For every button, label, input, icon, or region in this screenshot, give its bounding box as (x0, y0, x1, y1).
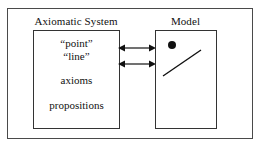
arrows-svg (118, 38, 156, 72)
double-headed-arrow-lower (118, 61, 156, 68)
line-segment-icon (163, 50, 201, 76)
term-axioms: axioms (34, 74, 119, 86)
point-dot-icon (168, 41, 176, 49)
interpretation-arrows (118, 38, 156, 72)
term-line: “line” (34, 50, 119, 62)
model-contents (155, 30, 217, 129)
axiomatic-system-box: “point” “line” axioms propositions (33, 30, 120, 129)
model-marks-svg (155, 30, 217, 129)
double-headed-arrow-upper (118, 45, 156, 52)
term-propositions: propositions (34, 99, 119, 111)
model-label: Model (155, 15, 216, 27)
axiomatic-system-model-diagram: Axiomatic System “point” “line” axioms p… (0, 0, 264, 148)
term-point: “point” (34, 37, 119, 49)
axiomatic-system-label: Axiomatic System (33, 15, 119, 27)
